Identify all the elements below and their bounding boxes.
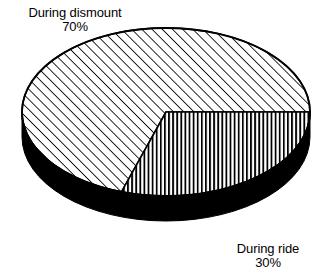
slice-label-during-ride: During ride 30% bbox=[216, 242, 320, 269]
pie-chart-canvas bbox=[0, 0, 331, 278]
slice-label-during-ride-percent: 30% bbox=[216, 256, 320, 270]
slice-label-during-dismount-name: During dismount bbox=[19, 6, 131, 20]
pie-top-face bbox=[22, 28, 310, 196]
slice-label-during-dismount-percent: 70% bbox=[19, 20, 131, 34]
slice-label-during-ride-name: During ride bbox=[216, 242, 320, 256]
pie-chart: During dismount 70% During ride 30% bbox=[0, 0, 331, 278]
slice-label-during-dismount: During dismount 70% bbox=[19, 6, 131, 33]
